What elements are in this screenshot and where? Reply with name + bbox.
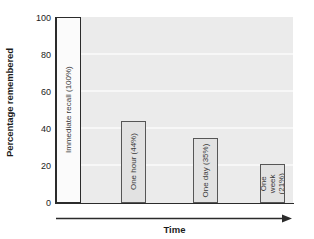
x-axis-arrow-icon (56, 214, 292, 223)
bar-chart-figure: Percentage remembered 100 80 60 40 20 0 … (0, 0, 314, 239)
y-tick-20: 20 (25, 162, 51, 171)
bar-one-hour[interactable]: One hour (44%) (121, 121, 146, 203)
y-axis-title-text: Percentage remembered (4, 48, 15, 157)
y-tick-0: 0 (25, 199, 51, 208)
gridline-40 (55, 127, 293, 129)
y-tick-40: 40 (25, 125, 51, 134)
y-tick-100: 100 (25, 14, 51, 23)
y-axis-title: Percentage remembered (0, 0, 18, 205)
gridline-20 (55, 164, 293, 166)
bar-one-day[interactable]: One day (35%) (193, 138, 218, 203)
bar-one-week[interactable]: One week (21%) (260, 164, 285, 203)
bar-label-one-week-line1: One week (260, 174, 277, 193)
x-axis-line (55, 203, 294, 204)
bar-label-one-day: One day (35%) (201, 144, 210, 198)
x-axis-title: Time (55, 224, 294, 235)
y-tick-60: 60 (25, 88, 51, 97)
bar-label-one-week-line2: (21%) (277, 173, 285, 194)
plot-area: Immediate recall (100%) One hour (44%) O… (55, 17, 293, 203)
y-axis-tick-labels: 100 80 60 40 20 0 (18, 0, 51, 239)
gridline-80 (55, 53, 293, 55)
bar-label-immediate-recall: Immediate recall (100%) (64, 67, 73, 154)
y-axis-line (55, 17, 56, 204)
gridline-60 (55, 90, 293, 92)
bar-label-one-hour: One hour (44%) (129, 134, 138, 191)
y-tick-80: 80 (25, 51, 51, 60)
bar-immediate-recall[interactable]: Immediate recall (100%) (56, 17, 81, 203)
bar-label-one-week: One week (21%) (260, 172, 285, 195)
